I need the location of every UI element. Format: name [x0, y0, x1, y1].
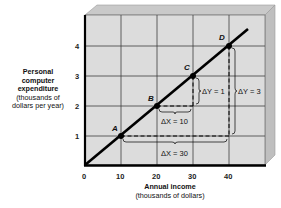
x-tick-10: 10 [116, 172, 124, 181]
x-subtitle: (thousands of dollars) [110, 192, 230, 201]
y-tick-4: 4 [75, 42, 80, 51]
y-tick-1: 1 [75, 132, 79, 141]
x-tick-30: 30 [188, 172, 196, 181]
point-label-c: C [184, 63, 190, 72]
delta-x-30-label: ΔX = 30 [161, 149, 188, 158]
x-tick-0: 0 [82, 172, 86, 181]
point-b [154, 103, 160, 109]
point-label-d: D [219, 33, 225, 42]
y-axis-title: Personal computer expenditure (thousands… [0, 68, 76, 111]
point-d [226, 43, 232, 49]
delta-x-10-label: ΔX = 10 [161, 117, 188, 126]
bevel-right [265, 5, 275, 165]
x-tick-20: 20 [152, 172, 160, 181]
point-label-a: A [111, 124, 118, 133]
x-axis-title: Annual income (thousands of dollars) [110, 183, 230, 200]
bevel-top [85, 5, 275, 15]
y-subtitle-line-2: dollars per year) [0, 102, 76, 111]
point-c [190, 73, 196, 79]
point-label-b: B [148, 94, 154, 103]
point-a [118, 133, 124, 139]
x-tick-40: 40 [224, 172, 232, 181]
delta-y-1-label: ΔY = 1 [202, 87, 225, 96]
delta-y-3-label: ΔY = 3 [238, 87, 261, 96]
